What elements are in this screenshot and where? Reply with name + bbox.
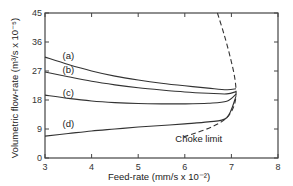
series-chokelimit [180, 13, 236, 138]
y-tick-label: 9 [37, 124, 42, 134]
x-tick-label: 3 [42, 162, 47, 172]
line-chart: (a)(b)(c)(d)Choke limit 345678 091827364… [0, 0, 293, 186]
series-d [45, 96, 236, 136]
y-tick-label: 36 [32, 37, 42, 47]
annotation-label: (a) [62, 50, 74, 61]
y-tick-label: 18 [32, 95, 42, 105]
y-axis: 0918273645 [32, 8, 278, 163]
y-tick-label: 45 [32, 8, 42, 18]
annotation-label: (d) [62, 118, 74, 129]
y-tick-label: 0 [37, 153, 42, 163]
annotation-label: (c) [63, 87, 74, 98]
annotation-label: (b) [62, 64, 74, 75]
x-axis: 345678 [42, 13, 280, 172]
plot-area: (a)(b)(c)(d)Choke limit [45, 13, 278, 158]
plot-frame [45, 13, 278, 158]
x-tick-label: 7 [229, 162, 234, 172]
y-axis-label: Volumetric flow-rate (m³/s x 10⁻⁵) [9, 18, 20, 158]
x-tick-label: 4 [89, 162, 94, 172]
y-tick-label: 27 [32, 66, 42, 76]
x-axis-label: Feed-rate (mm/s x 10⁻²) [108, 171, 210, 182]
x-tick-label: 8 [275, 162, 280, 172]
annotation-label: Choke limit [175, 133, 222, 144]
